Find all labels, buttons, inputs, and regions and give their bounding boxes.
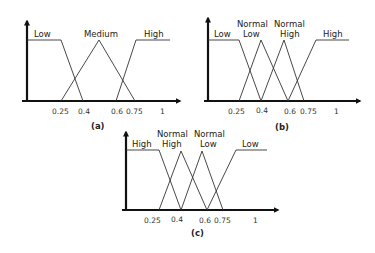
tick-1: 1 xyxy=(334,107,339,116)
mf-high xyxy=(288,40,349,101)
mf-low xyxy=(27,40,83,101)
tick-0.75: 0.75 xyxy=(214,216,231,225)
mf-high xyxy=(126,150,181,210)
label-normal-high-line1: Normal xyxy=(274,19,305,29)
tick-0.25: 0.25 xyxy=(228,107,245,116)
label-low: Low xyxy=(214,29,231,39)
tick-0.25: 0.25 xyxy=(144,216,161,225)
panel-b: Low Normal Low Normal High High 0.25 0.4… xyxy=(204,18,360,132)
tick-0.4: 0.4 xyxy=(171,215,183,224)
panel-c: High Normal High Normal Low Low 0.25 0.4… xyxy=(122,129,278,238)
label-high: High xyxy=(323,29,343,39)
label-low: Low xyxy=(242,139,259,149)
label-low: Low xyxy=(34,29,51,39)
label-normal-low-line1: Normal xyxy=(194,129,225,139)
tick-0.6: 0.6 xyxy=(111,107,123,116)
mf-normal-low xyxy=(181,151,223,210)
tick-1: 1 xyxy=(253,216,258,225)
label-high: High xyxy=(132,139,152,149)
panel-a: Low Medium High 0.25 0.4 0.6 0.75 1 (a) xyxy=(22,21,180,131)
tick-0.75: 0.75 xyxy=(126,107,143,116)
label-normal-low-line1: Normal xyxy=(237,19,268,29)
label-normal-low-line2: Low xyxy=(200,139,217,149)
label-normal-high-line2: High xyxy=(162,139,182,149)
tick-0.75: 0.75 xyxy=(300,107,317,116)
label-normal-high-line2: High xyxy=(280,29,300,39)
label-high: High xyxy=(144,29,164,39)
tick-1: 1 xyxy=(160,107,165,116)
tick-0.25: 0.25 xyxy=(52,107,69,116)
mf-high xyxy=(116,40,170,101)
tick-0.6: 0.6 xyxy=(284,107,296,116)
fuzzy-membership-figure: Low Medium High 0.25 0.4 0.6 0.75 1 (a) … xyxy=(0,0,375,253)
label-medium: Medium xyxy=(84,29,118,39)
tick-0.6: 0.6 xyxy=(199,216,211,225)
label-normal-high-line1: Normal xyxy=(157,129,188,139)
caption-a: (a) xyxy=(91,121,105,131)
label-normal-low-line2: Low xyxy=(243,29,260,39)
mf-low xyxy=(208,40,261,101)
mf-normal-high xyxy=(261,40,304,101)
caption-b: (b) xyxy=(275,122,289,132)
tick-0.4: 0.4 xyxy=(256,106,268,115)
mf-normal-high xyxy=(159,151,207,210)
mf-low xyxy=(207,150,267,210)
tick-0.4: 0.4 xyxy=(78,107,90,116)
caption-c: (c) xyxy=(191,228,204,238)
